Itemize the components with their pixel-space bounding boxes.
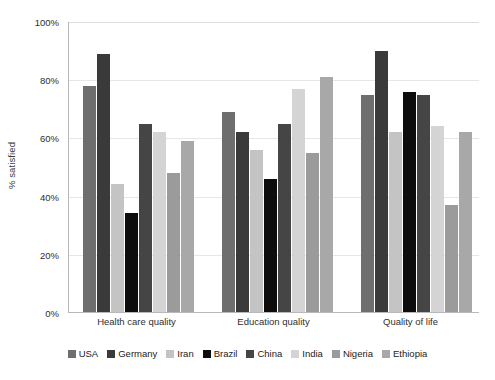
bar xyxy=(83,86,96,312)
legend-label: Brazil xyxy=(214,348,238,359)
bar xyxy=(320,77,333,312)
x-axis-category-label: Health care quality xyxy=(68,316,205,336)
bar xyxy=(222,112,235,312)
legend-label: China xyxy=(257,348,282,359)
y-axis-tick-label: 60% xyxy=(40,133,59,144)
bar xyxy=(181,141,194,312)
bar xyxy=(431,126,444,312)
bar xyxy=(292,89,305,312)
legend-swatch-icon xyxy=(246,350,254,358)
legend-label: Nigeria xyxy=(343,348,373,359)
legend-item[interactable]: Germany xyxy=(107,348,157,359)
bar xyxy=(459,132,472,312)
bar xyxy=(306,153,319,313)
bar xyxy=(389,132,402,312)
bar-group xyxy=(208,22,347,312)
bar xyxy=(153,132,166,312)
legend-item[interactable]: USA xyxy=(68,348,99,359)
legend-item[interactable]: China xyxy=(246,348,282,359)
bar-groups xyxy=(69,22,479,312)
bar xyxy=(403,92,416,312)
legend-label: Ethiopia xyxy=(393,348,427,359)
x-axis-category-label: Quality of life xyxy=(342,316,479,336)
y-axis-title-text: % satisfied xyxy=(7,141,18,188)
legend-swatch-icon xyxy=(382,350,390,358)
legend-swatch-icon xyxy=(291,350,299,358)
legend-label: USA xyxy=(79,348,99,359)
bar xyxy=(167,173,180,312)
legend-item[interactable]: Iran xyxy=(166,348,193,359)
x-axis-category-labels: Health care qualityEducation qualityQual… xyxy=(68,316,479,336)
legend-swatch-icon xyxy=(68,350,76,358)
bar xyxy=(125,213,138,312)
legend-label: India xyxy=(302,348,323,359)
bar xyxy=(361,95,374,313)
bar xyxy=(278,124,291,313)
legend-item[interactable]: Ethiopia xyxy=(382,348,427,359)
bar-group xyxy=(69,22,208,312)
bar xyxy=(97,54,110,312)
legend-swatch-icon xyxy=(166,350,174,358)
y-axis-tick-label: 0% xyxy=(45,308,59,319)
y-axis-tick-label: 20% xyxy=(40,249,59,260)
y-axis-tick-label: 80% xyxy=(40,75,59,86)
bar xyxy=(445,205,458,312)
y-axis-tick-label: 40% xyxy=(40,191,59,202)
bar xyxy=(375,51,388,312)
legend-item[interactable]: Brazil xyxy=(203,348,238,359)
legend-item[interactable]: India xyxy=(291,348,323,359)
y-axis-title: % satisfied xyxy=(0,0,24,330)
legend-swatch-icon xyxy=(203,350,211,358)
y-axis-tick-label: 100% xyxy=(35,17,59,28)
legend-item[interactable]: Nigeria xyxy=(332,348,373,359)
bar xyxy=(111,184,124,312)
bar xyxy=(264,179,277,312)
legend-label: Iran xyxy=(177,348,193,359)
legend-label: Germany xyxy=(118,348,157,359)
x-axis-category-label: Education quality xyxy=(205,316,342,336)
legend-swatch-icon xyxy=(332,350,340,358)
chart-legend: USAGermanyIranBrazilChinaIndiaNigeriaEth… xyxy=(0,348,495,359)
bar-group xyxy=(347,22,486,312)
legend-swatch-icon xyxy=(107,350,115,358)
bar xyxy=(417,95,430,313)
plot-area xyxy=(68,22,479,313)
bar xyxy=(250,150,263,312)
bar-chart: % satisfied 100%80%60%40%20%0% Health ca… xyxy=(0,0,495,380)
bar xyxy=(236,132,249,312)
y-axis-tick-labels: 100%80%60%40%20%0% xyxy=(24,22,64,313)
bar xyxy=(139,124,152,313)
